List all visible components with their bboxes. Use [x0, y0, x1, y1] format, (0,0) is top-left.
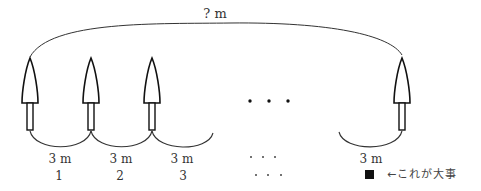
- gap-distance-label-3: 3 m: [171, 153, 194, 165]
- gap-arc-3: [152, 131, 213, 147]
- tree-1: [22, 58, 38, 130]
- gap-distance-label-1: 3 m: [49, 153, 72, 165]
- ellipsis-index-icon: [255, 174, 282, 176]
- tree-3: [144, 58, 160, 130]
- gap-arc-2: [91, 131, 152, 147]
- ellipsis-trees-icon: [248, 99, 289, 102]
- tree-last: [394, 58, 410, 130]
- importance-note: ←これが大事: [387, 169, 457, 180]
- gap-index-label-3: 3: [179, 170, 187, 182]
- tree-2: [83, 58, 99, 130]
- gap-arc-1: [30, 131, 91, 147]
- gap-index-label-2: 2: [116, 170, 124, 182]
- total-distance-label: ? m: [203, 7, 226, 20]
- gap-arc-last: [339, 131, 402, 147]
- total-distance-arc: [30, 23, 402, 57]
- gap-distance-label-last: 3 m: [360, 153, 383, 165]
- highlight-square-icon: [365, 170, 374, 179]
- ellipsis-distance-icon: [250, 156, 276, 158]
- gap-index-label-1: 1: [55, 170, 63, 182]
- gap-distance-label-2: 3 m: [110, 153, 133, 165]
- tree-spacing-diagram: [0, 0, 481, 191]
